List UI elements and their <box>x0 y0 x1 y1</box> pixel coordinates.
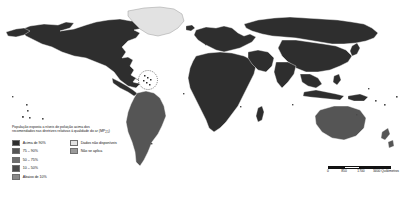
legend-label-10-50: 10 – 50% <box>23 166 38 170</box>
legend-label-not-applicable: Não se aplica <box>81 149 103 153</box>
legend-title-line1: População exposta a níveis de poluição a… <box>12 125 90 129</box>
legend-item-not-applicable: Não se aplica <box>70 147 117 156</box>
legend-item-75-90: 75 – 90% <box>12 147 70 156</box>
legend-item-above-90: Acima de 90% <box>12 138 70 147</box>
legend-label-above-90: Acima de 90% <box>23 141 46 145</box>
scalebar-bars <box>328 166 391 169</box>
legend-swatch-above-90 <box>12 140 20 146</box>
legend-title-line2: recomendados nas diretrizes relativas à … <box>12 129 105 133</box>
legend-swatch-no-data <box>70 140 78 146</box>
legend-label-no-data: Dados não disponíveis <box>81 141 117 145</box>
legend-item-below-10: Abaixo de 10% <box>12 173 70 182</box>
scalebar-segment-4 <box>375 166 391 169</box>
scalebar-tick-0: 0 <box>327 169 329 173</box>
legend-columns: Acima de 90% 75 – 90% 50 – 75% 10 – 50% <box>12 138 147 181</box>
map-scalebar: 0 850 1700 3400 Quilómetros <box>326 166 404 176</box>
scalebar-segment-2 <box>344 166 360 169</box>
legend-column-scale: Acima de 90% 75 – 90% 50 – 75% 10 – 50% <box>12 138 70 181</box>
legend-label-below-10: Abaixo de 10% <box>23 175 47 179</box>
legend-swatch-below-10 <box>12 174 20 180</box>
legend-swatch-50-75 <box>12 157 20 163</box>
legend-swatch-10-50 <box>12 165 20 171</box>
legend-label-50-75: 50 – 75% <box>23 158 38 162</box>
scalebar-tick-1700: 1700 <box>357 169 364 173</box>
legend-item-no-data: Dados não disponíveis <box>70 138 117 147</box>
legend-swatch-75-90 <box>12 148 20 154</box>
scalebar-ticks: 0 850 1700 3400 Quilómetros <box>326 169 404 176</box>
legend-item-10-50: 10 – 50% <box>12 164 70 173</box>
scalebar-unit-label: 3400 Quilómetros <box>373 169 399 173</box>
legend-label-75-90: 75 – 90% <box>23 149 38 153</box>
legend-item-50-75: 50 – 75% <box>12 156 70 165</box>
air-quality-world-map: População exposta a níveis de poluição a… <box>0 0 411 202</box>
scalebar-segment-3 <box>360 166 376 169</box>
map-legend: População exposta a níveis de poluição a… <box>12 125 147 181</box>
legend-column-status: Dados não disponíveis Não se aplica <box>70 138 117 155</box>
legend-swatch-not-applicable <box>70 148 78 154</box>
scalebar-tick-850: 850 <box>341 169 347 173</box>
scalebar-segment-1 <box>328 166 344 169</box>
legend-title-close: ) <box>109 129 110 133</box>
legend-title: População exposta a níveis de poluição a… <box>12 125 138 135</box>
